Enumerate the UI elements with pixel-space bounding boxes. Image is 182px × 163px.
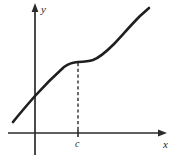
function-curve [13,8,149,122]
graph-canvas: y x c [0,0,182,163]
up-arrow-icon [32,3,39,12]
inflection-tick-label: c [75,138,80,149]
x-axis [8,130,167,137]
right-arrow-icon [158,130,167,137]
y-axis-label: y [40,3,46,15]
graph-figure: y x c [0,0,182,163]
x-axis-label: x [162,138,168,150]
